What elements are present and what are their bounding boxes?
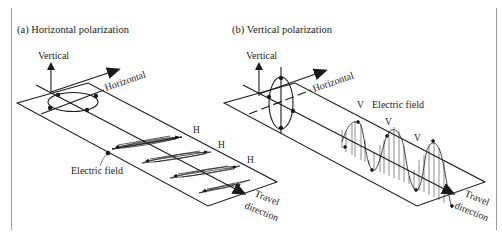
ellipse-point xyxy=(94,94,97,97)
ellipse-point xyxy=(279,76,282,79)
ellipse-point xyxy=(56,93,59,96)
v-marker: V xyxy=(385,117,392,127)
electric-field-label: Electric field xyxy=(71,165,123,176)
h-marker: H xyxy=(218,140,225,150)
h-marker: H xyxy=(247,155,254,165)
v-marker: V xyxy=(414,133,421,143)
ellipse-point xyxy=(48,106,51,109)
ellipse-point xyxy=(279,126,282,129)
panel-horizontal-polarization: (a) Horizontal polarization Vertical Hor… xyxy=(17,24,281,223)
travel-axis xyxy=(36,85,243,193)
h-marker: H xyxy=(193,125,200,135)
ellipse-point xyxy=(85,108,88,111)
panel-b-title: (b) Vertical polarization xyxy=(232,24,333,36)
electric-field-label: Electric field xyxy=(372,99,424,110)
vertical-axis-label: Vertical xyxy=(38,50,69,61)
ellipse-point xyxy=(291,109,294,112)
vertical-axis-label: Vertical xyxy=(246,50,277,61)
panel-a-title: (a) Horizontal polarization xyxy=(17,24,130,36)
horizontal-e-field-wave xyxy=(112,136,250,193)
polarization-diagram: (a) Horizontal polarization Vertical Hor… xyxy=(0,0,502,234)
v-marker: V xyxy=(357,100,364,110)
vertical-e-field-wave xyxy=(342,121,453,208)
propagation-plane xyxy=(224,83,485,206)
ellipse-point xyxy=(267,95,270,98)
